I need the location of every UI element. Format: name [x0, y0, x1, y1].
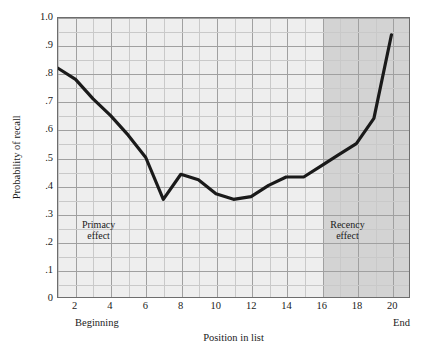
annotation-primacy-effect: Primacy effect [57, 219, 144, 241]
annotation-recency-effect: Recency effect [302, 219, 392, 241]
serial-position-curve-figure: Primacy effect Recency effect 1.0.9.8.7.… [0, 0, 426, 347]
x-axis-title: Position in list [57, 333, 410, 344]
x-axis-tick-label: 10 [201, 301, 231, 312]
x-axis-label-end: End [393, 318, 410, 329]
x-axis-tick-label: 20 [377, 301, 407, 312]
x-axis-tick-labels: 2468101214161820 [57, 301, 410, 317]
plot-area: Primacy effect Recency effect [57, 17, 410, 298]
y-axis-tick-label: 1.0 [5, 12, 53, 23]
y-axis-tick-label: .1 [5, 265, 53, 276]
y-axis-tick-label: .9 [5, 40, 53, 51]
recall-curve [58, 18, 409, 297]
x-axis-tick-label: 18 [342, 301, 372, 312]
x-axis-tick-label: 16 [307, 301, 337, 312]
x-axis-tick-label: 4 [95, 301, 125, 312]
y-axis-tick-label: 0 [5, 293, 53, 304]
x-axis-tick-label: 12 [236, 301, 266, 312]
y-axis-tick-label: .2 [5, 237, 53, 248]
x-axis-tick-label: 2 [60, 301, 90, 312]
x-axis-tick-label: 14 [271, 301, 301, 312]
y-axis-tick-labels: 1.0.9.8.7.6.5.4.3.2.10 [0, 17, 53, 298]
x-axis-label-beginning: Beginning [75, 318, 119, 329]
x-axis-tick-label: 6 [130, 301, 160, 312]
y-axis-title: Probability of recall [12, 77, 23, 237]
x-axis-tick-label: 8 [166, 301, 196, 312]
